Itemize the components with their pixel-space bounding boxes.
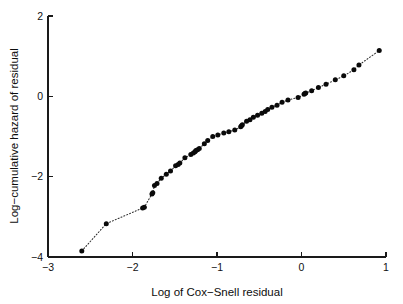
data-point: [265, 107, 270, 112]
data-point: [309, 88, 314, 93]
data-point: [79, 248, 84, 253]
cox-snell-scatter-plot: −3−2−101 20−2−4 Log of Cox−Snell residua…: [0, 0, 403, 304]
y-axis-title: Log−cumulative hazard of residual: [8, 48, 20, 223]
y-tick-label: −4: [31, 251, 43, 263]
data-point: [280, 100, 285, 105]
data-point: [104, 221, 109, 226]
y-tick-label: 2: [37, 10, 43, 22]
data-point: [155, 181, 160, 186]
y-tick-group: 20−2−4: [31, 10, 53, 263]
data-point: [240, 122, 245, 127]
data-point: [316, 85, 321, 90]
data-point: [285, 97, 290, 102]
data-point: [296, 95, 301, 100]
data-point: [164, 172, 169, 177]
data-point: [150, 190, 155, 195]
data-point: [197, 146, 202, 151]
data-point: [182, 155, 187, 160]
data-point: [210, 134, 215, 139]
x-tick-group: −3−2−101: [42, 252, 389, 273]
data-point-group: [79, 48, 381, 253]
x-tick-label: −1: [211, 261, 223, 273]
data-point: [142, 205, 147, 210]
data-point: [333, 77, 338, 82]
y-tick-label: 0: [37, 90, 43, 102]
data-point: [226, 129, 231, 134]
data-point: [324, 82, 329, 87]
data-point: [356, 63, 361, 68]
data-point: [215, 132, 220, 137]
x-tick-label: −2: [127, 261, 139, 273]
x-tick-label: 1: [383, 261, 389, 273]
chart-figure: −3−2−101 20−2−4 Log of Cox−Snell residua…: [0, 0, 403, 304]
data-point: [168, 169, 173, 174]
x-tick-label: −3: [42, 261, 54, 273]
data-point: [205, 138, 210, 143]
data-point: [341, 73, 346, 78]
x-axis-title: Log of Cox−Snell residual: [151, 286, 282, 298]
data-point: [351, 67, 356, 72]
x-tick-label: 0: [299, 261, 305, 273]
data-point: [221, 130, 226, 135]
data-point: [303, 91, 308, 96]
y-tick-label: −2: [31, 170, 43, 182]
data-point: [159, 176, 164, 181]
data-point: [177, 161, 182, 166]
data-point: [232, 128, 237, 133]
data-point: [269, 105, 274, 110]
data-point: [275, 103, 280, 108]
data-point: [377, 48, 382, 53]
